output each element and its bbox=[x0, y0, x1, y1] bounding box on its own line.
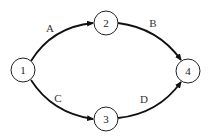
edge-d-label: D bbox=[140, 93, 148, 105]
node-4-label: 4 bbox=[185, 65, 191, 77]
node-3-label: 3 bbox=[103, 113, 109, 125]
edge-c-arrow bbox=[31, 80, 93, 119]
edge-b: B bbox=[118, 17, 181, 60]
node-4: 4 bbox=[176, 59, 200, 83]
edge-d-arrow bbox=[118, 82, 181, 118]
edge-a-arrow bbox=[31, 23, 93, 61]
edge-c: C bbox=[31, 80, 93, 119]
edge-b-label: B bbox=[149, 17, 156, 29]
edge-a: A bbox=[31, 22, 93, 61]
node-1-label: 1 bbox=[20, 64, 26, 76]
node-1: 1 bbox=[11, 58, 35, 82]
activity-network-diagram: A B C D 1 2 3 4 bbox=[0, 0, 208, 138]
node-3: 3 bbox=[94, 107, 118, 131]
edge-c-label: C bbox=[54, 92, 61, 104]
edge-d: D bbox=[118, 82, 181, 118]
node-2-label: 2 bbox=[103, 17, 109, 29]
edge-a-label: A bbox=[46, 22, 54, 34]
node-2: 2 bbox=[94, 11, 118, 35]
